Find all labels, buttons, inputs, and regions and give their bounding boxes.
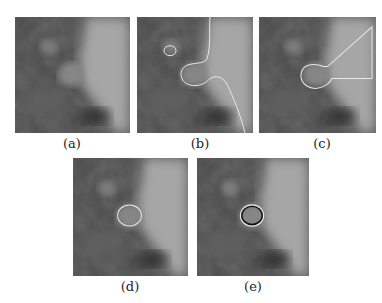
- panel-b-image: [137, 17, 253, 133]
- panel-c-image: [259, 17, 376, 133]
- caption-c: (c): [302, 136, 342, 151]
- panel-e-image: [197, 158, 309, 276]
- panel-d-image: [73, 158, 188, 276]
- caption-e: (e): [233, 279, 273, 294]
- caption-a: (a): [52, 136, 92, 151]
- caption-d: (d): [110, 279, 150, 294]
- panel-a-image: [15, 17, 130, 133]
- caption-b: (b): [180, 136, 220, 151]
